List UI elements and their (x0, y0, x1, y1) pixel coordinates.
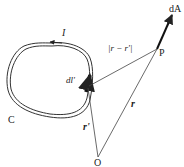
diagram-graphics (0, 0, 184, 167)
element-label: dl' (66, 76, 75, 85)
biot-savart-diagram: I C dl' P O dA r r' |r − r'| (0, 0, 184, 167)
current-label: I (62, 28, 65, 38)
curve-label: C (8, 115, 15, 125)
current-loop (7, 43, 93, 118)
distance-label: |r − r'| (108, 44, 132, 53)
point-label: P (159, 48, 165, 58)
origin-label: O (94, 158, 101, 167)
area-vector-arrow (157, 15, 172, 49)
area-label: dA (169, 4, 181, 14)
r-prime-label: r' (83, 122, 90, 132)
r-label: r (131, 99, 135, 109)
